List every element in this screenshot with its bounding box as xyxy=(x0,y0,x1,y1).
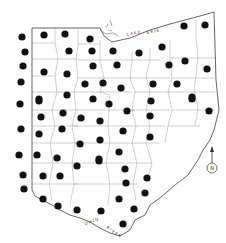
north-label: N xyxy=(210,165,214,171)
county-dot xyxy=(115,195,122,202)
county-dot xyxy=(39,195,46,202)
lake-label-part2: ERIE xyxy=(146,27,161,35)
county-dot xyxy=(143,174,150,181)
county-dot xyxy=(15,151,22,158)
county-dot xyxy=(40,68,47,75)
county-dot xyxy=(203,65,210,72)
state-border xyxy=(32,12,219,236)
county-dot xyxy=(19,171,26,178)
county-dot xyxy=(86,35,93,42)
county-dot xyxy=(205,107,212,114)
county-dot xyxy=(63,91,70,98)
county-dot xyxy=(146,133,153,140)
county-dot xyxy=(16,100,23,107)
county-dot xyxy=(97,207,104,214)
county-dot xyxy=(73,206,80,213)
county-dot xyxy=(122,179,129,186)
county-dot xyxy=(130,205,137,212)
county-dot xyxy=(149,80,156,87)
county-dot xyxy=(173,80,180,87)
county-dot xyxy=(117,84,124,91)
county-dot xyxy=(18,33,25,40)
county-dot xyxy=(181,57,188,64)
county-dot xyxy=(56,172,63,179)
county-dot xyxy=(109,47,116,54)
county-dot xyxy=(54,202,61,209)
county-dot xyxy=(135,49,142,56)
county-dot xyxy=(53,154,60,161)
county-dot xyxy=(35,130,42,137)
county-dot xyxy=(147,97,154,104)
county-dot xyxy=(65,47,72,54)
county-dot xyxy=(146,112,153,119)
county-dot xyxy=(37,113,44,120)
county-dot xyxy=(96,117,103,124)
county-dot xyxy=(89,95,96,102)
county-dot xyxy=(95,157,102,164)
county-dot xyxy=(121,165,128,172)
lake-label-part1: LAKE xyxy=(126,29,142,37)
county-dot xyxy=(17,125,24,132)
county-dot xyxy=(40,31,47,38)
county-dot xyxy=(115,148,122,155)
county-dot xyxy=(76,140,83,147)
county-dot xyxy=(96,136,103,143)
county-dot xyxy=(119,220,126,227)
county-dot xyxy=(99,79,106,86)
county-dot xyxy=(61,30,68,37)
county-dot xyxy=(165,61,172,68)
county-dot xyxy=(141,189,148,196)
county-dot xyxy=(17,78,24,85)
county-dots xyxy=(15,21,212,227)
county-dot xyxy=(21,48,28,55)
ohio-county-map: LAKE ERIE OHIO RIVER N xyxy=(0,0,226,243)
county-dot xyxy=(119,127,126,134)
north-arrow-head xyxy=(210,146,214,152)
county-dot xyxy=(88,47,95,54)
county-dot xyxy=(123,107,130,114)
county-dot xyxy=(77,114,84,121)
county-dot xyxy=(201,21,208,28)
county-dot xyxy=(105,100,112,107)
county-dot xyxy=(188,95,195,102)
county-dot xyxy=(180,22,187,29)
county-dot xyxy=(20,185,27,192)
county-dot xyxy=(113,61,120,68)
county-dot xyxy=(39,172,46,179)
river-label-part1: OHIO xyxy=(84,216,100,225)
county-dot xyxy=(35,97,42,104)
county-dot xyxy=(19,62,26,69)
county-dot xyxy=(33,151,40,158)
county-dot xyxy=(81,80,88,87)
north-arrow: N xyxy=(207,146,217,173)
county-dot xyxy=(89,62,96,69)
county-dot xyxy=(59,109,66,116)
county-dot xyxy=(63,70,70,77)
county-dot xyxy=(158,43,165,50)
county-dot xyxy=(73,162,80,169)
county-dot xyxy=(58,125,65,132)
